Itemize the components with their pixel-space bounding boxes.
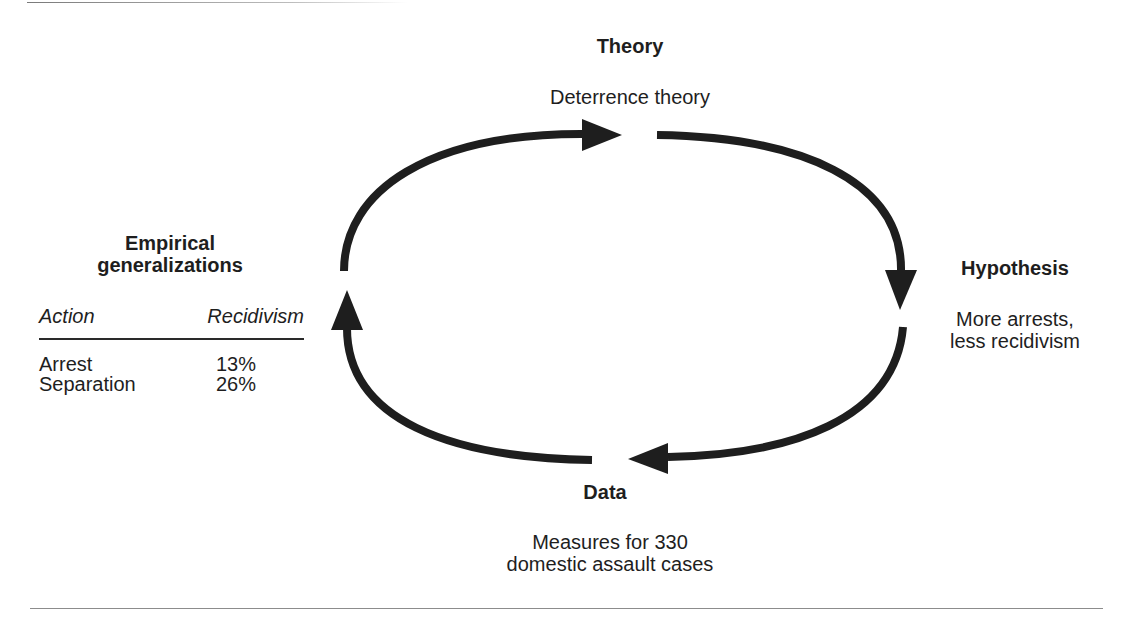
row-action: Separation bbox=[39, 374, 204, 394]
arrow-hypothesis-to-data bbox=[668, 327, 903, 457]
table-row: Arrest 13% bbox=[39, 354, 304, 374]
row-recidivism: 13% bbox=[204, 354, 286, 374]
data-line-2: domestic assault cases bbox=[480, 553, 740, 575]
empirical-title: Empirical generalizations bbox=[40, 232, 300, 276]
hypothesis-description: More arrests, less recidivism bbox=[915, 308, 1115, 352]
arrow-data-to-empirical bbox=[347, 328, 592, 460]
data-description: Measures for 330 domestic assault cases bbox=[480, 531, 740, 575]
theory-description: Deterrence theory bbox=[505, 86, 755, 108]
arrowhead-right-icon bbox=[582, 119, 622, 151]
empirical-table: Action Recidivism Arrest 13% Separation … bbox=[39, 305, 304, 394]
empirical-table-body: Arrest 13% Separation 26% bbox=[39, 354, 304, 394]
data-line-1: Measures for 330 bbox=[480, 531, 740, 553]
header-action: Action bbox=[39, 305, 95, 327]
hypothesis-line-2: less recidivism bbox=[915, 330, 1115, 352]
table-row: Separation 26% bbox=[39, 374, 304, 394]
hypothesis-title: Hypothesis bbox=[920, 257, 1110, 279]
empirical-title-line-1: Empirical bbox=[40, 232, 300, 254]
hypothesis-line-1: More arrests, bbox=[915, 308, 1115, 330]
arrow-empirical-to-theory bbox=[344, 134, 585, 271]
row-action: Arrest bbox=[39, 354, 204, 374]
row-recidivism: 26% bbox=[204, 374, 286, 394]
theory-title: Theory bbox=[540, 35, 720, 57]
arrowhead-down-icon bbox=[885, 270, 917, 310]
arrow-theory-to-hypothesis bbox=[657, 135, 901, 272]
bottom-rule bbox=[30, 608, 1103, 609]
data-title: Data bbox=[540, 481, 670, 503]
arrowhead-left-icon bbox=[628, 443, 668, 474]
header-recidivism: Recidivism bbox=[207, 305, 304, 327]
empirical-title-line-2: generalizations bbox=[40, 254, 300, 276]
empirical-table-header: Action Recidivism bbox=[39, 305, 304, 340]
arrowhead-up-icon bbox=[331, 290, 363, 330]
